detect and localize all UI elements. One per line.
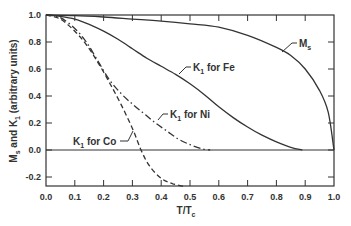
x-tick-label: 0.5 — [184, 192, 197, 202]
x-tick-label: 0.4 — [155, 192, 168, 202]
annotation-k1-fe: K1 for Fe — [193, 62, 235, 75]
plot-frame — [46, 15, 334, 186]
x-tick-label: 0.6 — [213, 192, 226, 202]
x-tick-label: 0.7 — [241, 192, 254, 202]
y-tick-label: 0.0 — [28, 145, 41, 155]
y-tick-label: 1.0 — [28, 10, 41, 20]
x-tick-label: 1.0 — [328, 192, 341, 202]
annotation-k1-ni: K1 for Ni — [170, 109, 210, 122]
x-tick-label: 0.1 — [69, 192, 82, 202]
fe-leader — [179, 67, 191, 74]
y-tick-label: 0.4 — [28, 91, 41, 101]
ni-leader — [158, 114, 168, 120]
series-lines — [46, 15, 334, 186]
y-tick-label: 0.2 — [28, 118, 41, 128]
x-tick-label: 0.0 — [40, 192, 53, 202]
x-tick-label: 0.9 — [299, 192, 312, 202]
series-k1-for-co — [46, 15, 184, 186]
co-leader — [120, 131, 133, 141]
y-tick-label: 0.8 — [28, 37, 41, 47]
annotation-ms: Ms — [299, 38, 311, 51]
axis-ticks — [46, 15, 334, 186]
y-tick-label: -0.2 — [25, 172, 41, 182]
annotation-k1-co: K1 for Co — [73, 136, 116, 149]
series-k1-for-ni — [46, 15, 210, 150]
y-tick-label: 0.6 — [28, 64, 41, 74]
series-k1-for-fe — [46, 15, 302, 150]
chart: 0.00.10.20.30.40.50.60.70.80.91.01.00.80… — [0, 0, 351, 226]
tick-labels: 0.00.10.20.30.40.50.60.70.80.91.01.00.80… — [25, 10, 340, 202]
x-tick-label: 0.2 — [97, 192, 110, 202]
series-ms — [46, 15, 334, 150]
x-axis-title: T/Tc — [177, 205, 196, 218]
y-axis-title: Ms and K1 (arbitrary units) — [8, 39, 21, 162]
x-tick-label: 0.3 — [126, 192, 139, 202]
x-tick-label: 0.8 — [270, 192, 283, 202]
